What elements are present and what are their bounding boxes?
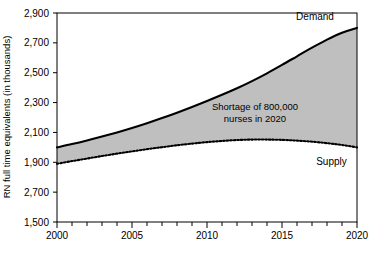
- supply-series-label: Supply: [316, 156, 347, 167]
- x-tick-label: 2020: [346, 230, 369, 241]
- y-tick-label: 1,900: [24, 157, 49, 168]
- shortage-annotation-line2: nurses in 2020: [224, 113, 286, 124]
- y-tick-label: 2,700: [24, 37, 49, 48]
- x-tick-label: 2010: [196, 230, 219, 241]
- x-axis-tick-labels: 20002005201020152020: [46, 230, 369, 241]
- x-tick-label: 2015: [271, 230, 294, 241]
- y-axis-tick-labels: 2,9002,7002,5002,3002,1001,9002,7001,500: [24, 8, 49, 228]
- chart-container: 2,9002,7002,5002,3002,1001,9002,7001,500…: [0, 0, 370, 256]
- y-tick-label: 2,700: [24, 187, 49, 198]
- y-tick-label: 1,500: [24, 217, 49, 228]
- demand-series-label: Demand: [296, 11, 334, 22]
- y-tick-label: 2,300: [24, 97, 49, 108]
- y-tick-label: 2,100: [24, 127, 49, 138]
- x-tick-label: 2000: [46, 230, 69, 241]
- y-tick-label: 2,900: [24, 8, 49, 19]
- nurse-supply-demand-chart: 2,9002,7002,5002,3002,1001,9002,7001,500…: [0, 0, 370, 256]
- shortage-annotation-line1: Shortage of 800,000: [212, 101, 298, 112]
- y-axis-title: RN full time equivalents (in thousands): [1, 36, 12, 199]
- y-tick-label: 2,500: [24, 67, 49, 78]
- x-tick-label: 2005: [121, 230, 144, 241]
- x-axis-ticks: [57, 222, 357, 228]
- y-axis-ticks: [53, 13, 57, 222]
